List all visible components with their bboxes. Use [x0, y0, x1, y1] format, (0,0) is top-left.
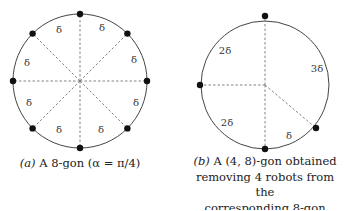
arc-label: δ — [24, 57, 30, 68]
arc-label: δ — [133, 97, 139, 108]
robot-dot — [29, 125, 35, 131]
robots-b — [197, 13, 319, 152]
caption-b-prefix: (b) — [193, 154, 209, 168]
caption-b-line1-wrap: (b) A (4, 8)-gon obtained — [185, 154, 345, 170]
arc-label: δ — [98, 124, 104, 135]
robot-dot — [262, 13, 268, 19]
caption-b-line3: corresponding 8-gon — [185, 201, 345, 211]
robot-dot — [29, 30, 35, 36]
caption-a-prefix: (a) — [20, 156, 36, 170]
robot-dot — [313, 125, 319, 131]
robot-dot — [77, 145, 83, 151]
robot-dot — [77, 11, 83, 17]
figure-a-8gon: δ δ δ δ δ δ δ δ — [10, 11, 150, 151]
robot-dot — [124, 30, 130, 36]
caption-a-text: A 8-gon (α = π/4) — [39, 156, 140, 170]
arc-label: 3δ — [311, 63, 323, 74]
robot-dot — [197, 82, 203, 88]
arc-label: 2δ — [221, 117, 233, 128]
arc-label: δ — [131, 54, 137, 65]
arc-label: δ — [56, 124, 62, 135]
caption-b-line1: A (4, 8)-gon obtained — [213, 154, 336, 168]
robot-dot — [144, 78, 150, 84]
caption-b-line2: removing 4 robots from the — [185, 170, 345, 201]
robot-dot — [124, 125, 130, 131]
arc-label: δ — [99, 22, 105, 33]
arc-label: 2δ — [219, 45, 231, 56]
radii-b — [200, 16, 316, 149]
figure-b-4-8gon: 2δ 3δ δ 2δ — [197, 13, 329, 152]
robot-dot — [10, 78, 16, 84]
arc-label: δ — [286, 130, 292, 141]
caption-a: (a) A 8-gon (α = π/4) — [10, 156, 150, 172]
arc-labels-b: 2δ 3δ δ 2δ — [219, 45, 323, 141]
caption-b: (b) A (4, 8)-gon obtained removing 4 rob… — [185, 154, 345, 210]
arc-label: δ — [26, 97, 32, 108]
robot-dot — [262, 146, 268, 152]
arc-label: δ — [56, 24, 62, 35]
